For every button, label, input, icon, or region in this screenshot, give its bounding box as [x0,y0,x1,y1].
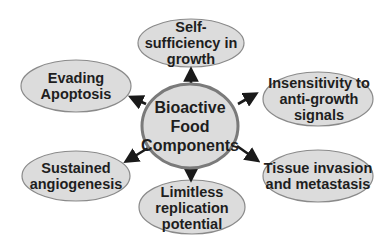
node-insensitivity-label: Insensitivity to anti-growth signals [260,72,378,126]
hallmarks-diagram: Bioactive Food Components Self- sufficie… [0,0,379,240]
node-tissue-invasion-label: Tissue invasion and metastasis [258,150,378,202]
node-self-sufficiency-label: Self- sufficiency in growth [138,18,244,68]
center-node-label: Bioactive Food Components [140,86,240,166]
node-evading-apoptosis-label: Evading Apoptosis [21,60,131,112]
node-limitless-replication-label: Limitless replication potential [139,181,245,235]
node-sustained-angiogenesis-label: Sustained angiogenesis [22,151,130,201]
arrow-to-insensitivity [238,96,252,104]
